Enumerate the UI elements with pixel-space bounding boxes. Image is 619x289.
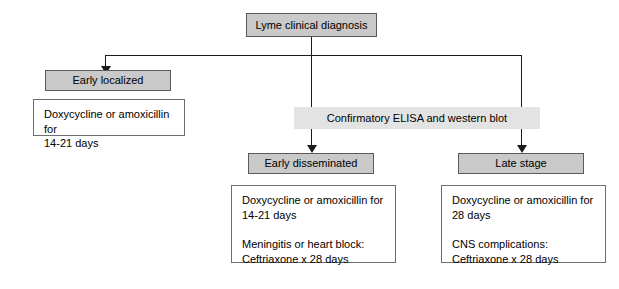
node-confirmatory-test[interactable]: Confirmatory ELISA and western blot [294, 107, 540, 129]
connector-late-stage [521, 55, 522, 147]
connector-early-disseminated [311, 55, 312, 147]
node-early-localized-treatment[interactable]: Doxycycline or amoxicillin for 14-21 day… [33, 99, 185, 136]
connector-branch-bus [105, 55, 522, 56]
node-root-label: Lyme clinical diagnosis [255, 18, 367, 33]
connector-root-stem [311, 37, 312, 56]
node-late-stage[interactable]: Late stage [458, 153, 584, 174]
arrowhead-early-disseminated [307, 145, 317, 153]
node-root[interactable]: Lyme clinical diagnosis [246, 13, 377, 37]
node-late-stage-treatment[interactable]: Doxycycline or amoxicillin for 28 days C… [441, 185, 606, 263]
node-confirmatory-test-label: Confirmatory ELISA and western blot [327, 111, 507, 126]
node-early-localized[interactable]: Early localized [45, 70, 171, 91]
node-late-stage-label: Late stage [495, 156, 546, 171]
node-early-localized-label: Early localized [73, 73, 144, 88]
arrowhead-late-stage [517, 145, 527, 153]
node-early-disseminated-treatment[interactable]: Doxycycline or amoxicillin for 14-21 day… [231, 185, 396, 263]
node-early-disseminated[interactable]: Early disseminated [248, 153, 374, 174]
node-early-disseminated-label: Early disseminated [265, 156, 358, 171]
flowchart-canvas: Lyme clinical diagnosis Early localized … [0, 0, 619, 289]
